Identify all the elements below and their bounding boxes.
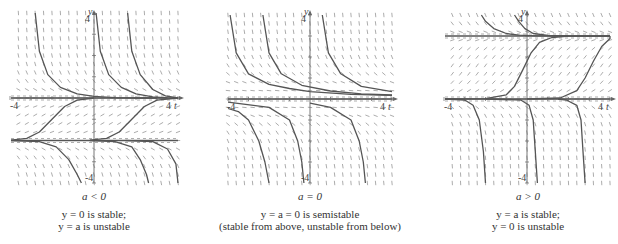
solution-curve <box>11 141 81 184</box>
solution-curve <box>527 36 610 99</box>
y-axis-arrow-icon <box>525 10 529 15</box>
tick-label-y-min: -4 <box>518 172 526 183</box>
panel-3-caption-line2: y = 0 is unstable <box>492 220 564 232</box>
solution-curve <box>481 15 610 36</box>
solution-curve <box>486 99 538 183</box>
tick-label-t-max: 4 <box>166 100 171 111</box>
t-axis-arrow-icon <box>611 97 616 101</box>
tick-label-t-min: -4 <box>227 101 235 112</box>
tick-label-y-min: -4 <box>301 172 309 183</box>
y-axis-arrow-icon <box>308 10 312 15</box>
solution-curve <box>558 99 585 183</box>
t-axis-label: t <box>606 101 609 112</box>
tick-label-t-min: -4 <box>10 100 18 111</box>
panel-1-caption-line2: y = a is unstable <box>58 220 130 232</box>
t-axis-arrow-icon <box>393 97 398 101</box>
solution-curve <box>263 15 392 95</box>
solution-curve <box>96 13 167 98</box>
tick-label-t-max: 4 <box>598 101 603 112</box>
solution-curve <box>35 13 157 98</box>
plot-panel-3: -44t4y-4 <box>444 6 616 185</box>
solution-curve <box>90 98 178 140</box>
solution-curve <box>228 102 304 183</box>
t-axis-arrow-icon <box>179 96 184 100</box>
tick-label-t-min: -4 <box>444 101 452 112</box>
solution-curve <box>228 109 269 184</box>
panel-2-title: a = 0 <box>298 190 322 202</box>
plot-panel-2: -44t4y-4 <box>226 6 398 185</box>
panel-2-caption-line1: y = a = 0 is semistable <box>261 208 360 220</box>
tick-label-t-max: 4 <box>380 101 385 112</box>
y-axis-label: y <box>520 6 526 17</box>
t-axis-label: t <box>174 100 177 111</box>
y-axis-arrow-icon <box>92 10 96 15</box>
solution-curve <box>322 15 392 92</box>
panel-1-title: a < 0 <box>82 190 106 202</box>
solution-curve <box>90 141 149 184</box>
y-axis-label: y <box>87 6 93 17</box>
tick-label-y-min: -4 <box>85 172 93 183</box>
plot-panel-1: -44t4y-4 <box>10 6 184 185</box>
panel-3-title: a > 0 <box>516 190 540 202</box>
panel-2-caption-line2: (stable from above, unstable from below) <box>219 220 401 232</box>
t-axis-label: t <box>388 101 391 112</box>
solution-curve <box>230 15 392 95</box>
panel-1-caption-line1: y = 0 is stable; <box>62 208 126 220</box>
solution-curve <box>445 36 610 99</box>
panel-3-caption-line1: y = a is stable; <box>496 208 560 220</box>
y-axis-label: y <box>303 6 309 17</box>
solution-curve <box>11 98 94 140</box>
